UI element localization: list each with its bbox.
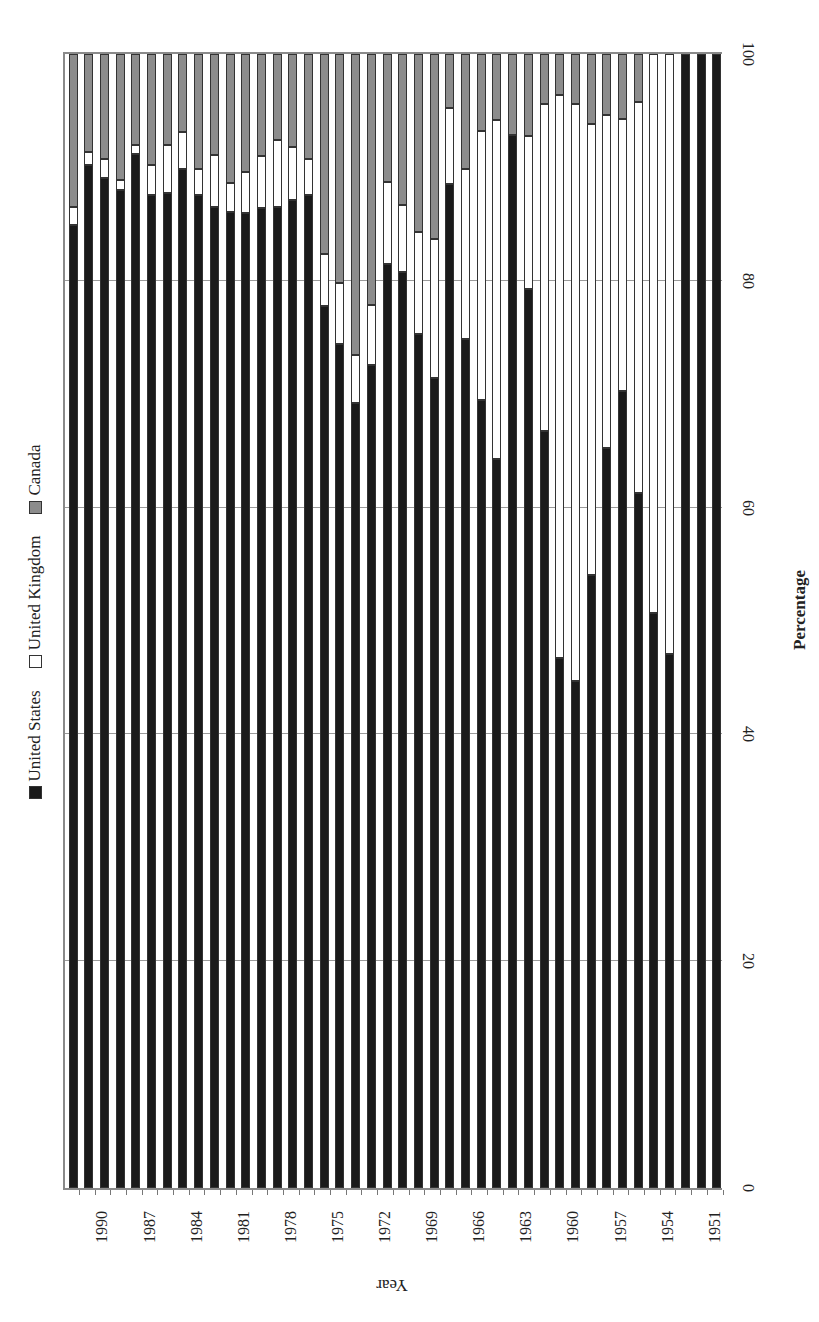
segment-uk-1963	[524, 136, 533, 289]
segment-ca-1958	[602, 54, 611, 115]
bar-1984	[194, 54, 203, 1188]
segment-uk-1990	[100, 159, 109, 177]
segment-uk-1976	[320, 254, 329, 306]
x-tickmark	[503, 1190, 504, 1195]
segment-us-1971	[398, 272, 407, 1188]
x-tickmark	[330, 1190, 331, 1195]
segment-ca-1981	[241, 54, 250, 172]
segment-uk-1971	[398, 205, 407, 272]
segment-ca-1974	[351, 54, 360, 355]
bar-1965	[492, 54, 501, 1188]
bar-1991	[84, 54, 93, 1188]
segment-ca-1967	[461, 54, 470, 169]
x-tickmark	[220, 1190, 221, 1195]
bar-1966	[477, 54, 486, 1188]
segment-ca-1978	[288, 54, 297, 147]
segment-us-1974	[351, 403, 360, 1188]
bar-1953	[681, 54, 690, 1188]
x-tick-1969: 1969	[423, 1202, 441, 1252]
y-axis-title: Percentage	[790, 550, 810, 670]
segment-ca-1964	[508, 54, 517, 135]
legend-item-us: United States	[25, 690, 45, 799]
legend-item-uk: United Kingdom	[25, 536, 45, 669]
x-tickmark	[79, 1190, 80, 1195]
legend-item-canada: Canada	[25, 445, 45, 514]
segment-us-1976	[320, 306, 329, 1188]
x-tickmark	[299, 1190, 300, 1195]
segment-uk-1958	[602, 115, 611, 447]
segment-uk-1978	[288, 147, 297, 200]
bar-1952	[697, 54, 706, 1188]
segment-us-1984	[194, 195, 203, 1188]
segment-uk-1954	[665, 54, 674, 654]
bar-1979	[273, 54, 282, 1188]
bar-1973	[367, 54, 376, 1188]
x-tick-1966: 1966	[470, 1202, 488, 1252]
x-tickmark	[204, 1190, 205, 1195]
x-tickmark	[723, 1190, 724, 1195]
x-tickmark	[95, 1190, 96, 1195]
segment-uk-1956	[634, 102, 643, 493]
segment-ca-1989	[116, 54, 125, 180]
x-tick-1990: 1990	[93, 1202, 111, 1252]
x-tickmark	[675, 1190, 676, 1195]
segment-uk-1957	[618, 119, 627, 391]
segment-us-1985	[178, 169, 187, 1188]
segment-us-1975	[335, 344, 344, 1188]
bar-1954	[665, 54, 674, 1188]
segment-us-1982	[226, 212, 235, 1188]
segment-us-1951	[712, 54, 721, 1188]
segment-us-1955	[649, 613, 658, 1188]
segment-uk-1965	[492, 120, 501, 459]
bar-1975	[335, 54, 344, 1188]
x-tickmark	[707, 1190, 708, 1195]
y-tick-80: 80	[739, 266, 757, 296]
segment-us-1983	[210, 207, 219, 1188]
segment-us-1966	[477, 400, 486, 1188]
segment-ca-1987	[147, 54, 156, 165]
segment-uk-1981	[241, 172, 250, 213]
segment-uk-1989	[116, 180, 125, 190]
segment-uk-1961	[555, 95, 564, 659]
segment-ca-1956	[634, 54, 643, 102]
segment-us-1964	[508, 135, 517, 1188]
segment-us-1980	[257, 208, 266, 1188]
x-tickmark	[660, 1190, 661, 1195]
x-tickmark	[581, 1190, 582, 1195]
segment-uk-1982	[226, 183, 235, 211]
x-tickmark	[424, 1190, 425, 1195]
segment-ca-1977	[304, 54, 313, 159]
x-tick-1972: 1972	[376, 1202, 394, 1252]
bar-1964	[508, 54, 517, 1188]
x-tickmark	[126, 1190, 127, 1195]
x-tickmark	[142, 1190, 143, 1195]
segment-ca-1965	[492, 54, 501, 120]
segment-ca-1963	[524, 54, 533, 136]
legend-swatch-us	[29, 786, 42, 799]
segment-uk-1983	[210, 155, 219, 207]
bar-1992	[69, 54, 78, 1188]
x-tickmark	[550, 1190, 551, 1195]
segment-us-1962	[540, 431, 549, 1189]
legend-swatch-canada	[29, 501, 42, 514]
segment-ca-1984	[194, 54, 203, 169]
bar-1963	[524, 54, 533, 1188]
bar-1969	[430, 54, 439, 1188]
segment-ca-1968	[445, 54, 454, 108]
bar-1958	[602, 54, 611, 1188]
segment-ca-1962	[540, 54, 549, 104]
segment-ca-1980	[257, 54, 266, 156]
y-tick-20: 20	[739, 946, 757, 976]
segment-us-1956	[634, 493, 643, 1188]
segment-ca-1986	[163, 54, 172, 145]
segment-ca-1966	[477, 54, 486, 131]
bar-1986	[163, 54, 172, 1188]
bar-1989	[116, 54, 125, 1188]
y-tick-40: 40	[739, 719, 757, 749]
bar-1956	[634, 54, 643, 1188]
legend-label-us: United States	[25, 690, 45, 781]
segment-uk-1977	[304, 159, 313, 194]
bar-1955	[649, 54, 658, 1188]
x-tick-1981: 1981	[235, 1202, 253, 1252]
x-tickmark	[566, 1190, 567, 1195]
